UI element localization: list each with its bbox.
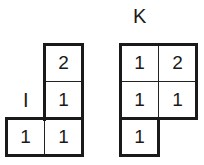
cell: 1: [120, 44, 159, 82]
cell: 1: [158, 81, 197, 119]
cell: 1: [44, 118, 83, 156]
cell: 1: [120, 118, 159, 156]
cell: 1: [6, 118, 45, 156]
diagram-label: K: [133, 6, 146, 26]
cell: 2: [44, 44, 83, 82]
diagram-label: I: [23, 90, 29, 110]
cell: 2: [158, 44, 197, 82]
cell: 1: [120, 81, 159, 119]
cell: 1: [44, 81, 83, 119]
